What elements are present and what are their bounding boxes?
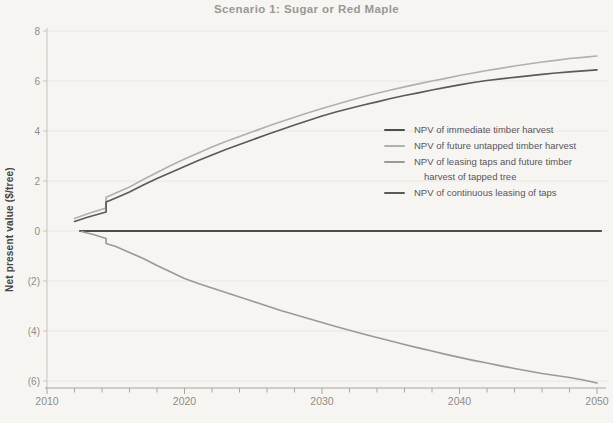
legend-label: NPV of leasing taps and future timberhar… xyxy=(414,154,572,186)
legend-item: NPV of future untapped timber harvest xyxy=(384,138,576,154)
x-tick-label: 2020 xyxy=(173,395,197,407)
legend-line-swatch xyxy=(384,161,405,163)
legend-label: NPV of immediate timber harvest xyxy=(414,122,553,138)
x-tick-label: 2030 xyxy=(310,395,334,407)
x-tick-label: 2040 xyxy=(448,395,472,407)
x-tick-label: 2010 xyxy=(35,395,59,407)
y-tick-label: 2 xyxy=(34,176,40,187)
y-tick-label: 4 xyxy=(34,126,40,137)
x-tick-label: 2050 xyxy=(585,395,609,407)
series-line-2 xyxy=(81,232,597,384)
y-tick-label: 6 xyxy=(34,76,40,87)
legend-item: NPV of immediate timber harvest xyxy=(384,122,576,138)
legend-line-swatch xyxy=(384,192,405,194)
y-tick-label: 8 xyxy=(34,26,40,37)
legend-line-swatch xyxy=(384,129,405,131)
legend: NPV of immediate timber harvestNPV of fu… xyxy=(384,122,576,201)
plot-area: 86420(2)(4)(6)20102020203020402050 xyxy=(0,0,613,423)
y-tick-label: (4) xyxy=(28,326,40,337)
legend-item: NPV of continuous leasing of taps xyxy=(384,185,576,201)
y-tick-label: (2) xyxy=(28,276,40,287)
legend-line-swatch xyxy=(384,145,405,147)
legend-label: NPV of continuous leasing of taps xyxy=(414,185,557,201)
y-tick-label: 0 xyxy=(34,226,40,237)
figure: Scenario 1: Sugar or Red Maple Net prese… xyxy=(0,0,613,423)
y-tick-label: (6) xyxy=(28,376,40,387)
legend-item: NPV of leasing taps and future timberhar… xyxy=(384,154,576,186)
legend-label: NPV of future untapped timber harvest xyxy=(414,138,576,154)
